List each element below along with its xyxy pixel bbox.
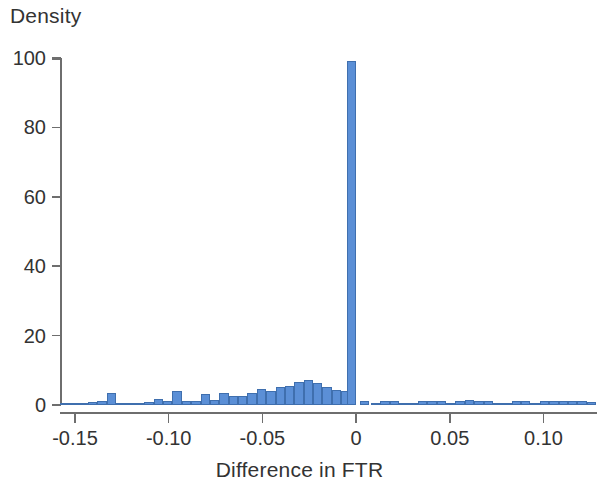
x-axis-tick-label: -0.10 (124, 427, 214, 450)
histogram-bar (182, 401, 191, 405)
y-axis-tick-label: 60 (0, 185, 46, 208)
histogram-bar (399, 403, 408, 405)
histogram-bar (446, 403, 455, 405)
histogram-bar (530, 403, 539, 405)
histogram-bar (322, 387, 331, 405)
histogram-bar (191, 401, 200, 406)
histogram-bar (210, 400, 219, 405)
histogram-bar (521, 401, 530, 406)
x-axis-tick-label: -0.15 (30, 427, 120, 450)
x-axis-line (60, 412, 597, 414)
histogram-bar (60, 403, 69, 405)
histogram-bar (455, 401, 464, 406)
y-axis-tick-label: 80 (0, 116, 46, 139)
histogram-bar (294, 382, 303, 405)
histogram-bar (276, 387, 285, 405)
x-axis-tick (168, 413, 170, 423)
histogram-bar (88, 402, 97, 405)
histogram-bar (201, 394, 210, 405)
histogram-bar (172, 391, 181, 405)
histogram-bar (304, 380, 313, 405)
histogram-bar (69, 403, 78, 405)
histogram-bar (437, 401, 446, 405)
histogram-bar (247, 393, 256, 405)
histogram-bar (219, 393, 228, 405)
histogram-bar (238, 396, 247, 405)
histogram-figure: Density 020406080100 -0.15-0.10-0.0500.0… (0, 0, 599, 496)
x-axis-tick (449, 413, 451, 423)
x-axis-title: Difference in FTR (0, 458, 599, 482)
histogram-bar (380, 401, 389, 405)
histogram-bar (559, 401, 568, 405)
histogram-bar (568, 401, 577, 406)
histogram-bar (371, 403, 380, 405)
histogram-bar (154, 399, 163, 405)
histogram-bar (409, 403, 418, 405)
histogram-bar (493, 403, 502, 405)
histogram-bar (427, 401, 436, 406)
histogram-bar (587, 402, 596, 405)
x-axis-tick (74, 413, 76, 423)
histogram-bar (332, 390, 341, 405)
histogram-bar (313, 383, 322, 405)
x-axis-tick-label: 0.05 (405, 427, 495, 450)
histogram-bars (60, 56, 596, 405)
histogram-bar (512, 401, 521, 405)
plot-area (60, 56, 596, 405)
histogram-bar (360, 401, 369, 405)
histogram-bar (502, 403, 511, 405)
histogram-bar (116, 403, 125, 405)
histogram-bar (229, 396, 238, 405)
histogram-bar (549, 401, 558, 406)
x-axis-tick-label: 0 (311, 427, 401, 450)
histogram-bar (418, 401, 427, 405)
histogram-bar (126, 403, 135, 405)
histogram-bar (577, 401, 586, 405)
x-axis-tick (543, 413, 545, 423)
histogram-bar (347, 61, 356, 405)
y-axis-tick-label: 100 (0, 47, 46, 70)
histogram-bar (474, 401, 483, 406)
histogram-bar (266, 391, 275, 405)
x-axis-tick (262, 413, 264, 423)
histogram-bar (285, 386, 294, 405)
y-axis-title: Density (10, 4, 81, 28)
histogram-bar (144, 402, 153, 405)
histogram-bar (107, 393, 116, 405)
x-axis-tick-label: 0.10 (499, 427, 589, 450)
histogram-bar (97, 401, 106, 405)
histogram-bar (135, 403, 144, 405)
y-axis-tick-label: 20 (0, 324, 46, 347)
histogram-bar (79, 403, 88, 405)
histogram-bar (484, 401, 493, 405)
x-axis-tick-label: -0.05 (217, 427, 307, 450)
histogram-bar (540, 401, 549, 405)
histogram-bar (257, 389, 266, 405)
x-axis-tick (355, 413, 357, 423)
histogram-bar (465, 400, 474, 405)
histogram-bar (163, 401, 172, 406)
y-axis-tick-label: 0 (0, 394, 46, 417)
histogram-bar (390, 401, 399, 405)
y-axis-tick-label: 40 (0, 255, 46, 278)
